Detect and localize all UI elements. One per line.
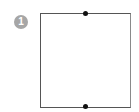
- square-shape: [40, 13, 131, 108]
- step-number-badge: 1: [14, 15, 28, 29]
- top-midpoint-dot: [83, 11, 88, 16]
- bottom-midpoint-dot: [83, 104, 88, 109]
